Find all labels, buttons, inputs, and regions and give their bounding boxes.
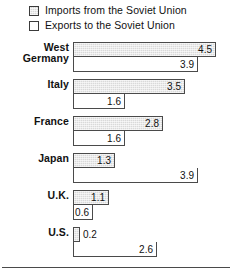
bar-value-exports: 3.9 bbox=[180, 59, 197, 70]
legend-item-exports-label: Exports to the Soviet Union bbox=[45, 20, 175, 31]
bar-exports: 3.9 bbox=[73, 168, 198, 183]
category-label: Japan bbox=[3, 153, 69, 164]
bar-exports: 0.6 bbox=[73, 205, 93, 220]
bar-imports: 1.1 bbox=[73, 190, 109, 205]
category-label-line1: U.S. bbox=[48, 226, 69, 238]
legend-item-imports: Imports from the Soviet Union bbox=[29, 4, 229, 17]
category-label: West Germany bbox=[3, 42, 69, 64]
bar-group: U.S. 0.2 2.6 bbox=[0, 227, 232, 264]
bar-value-imports: 1.1 bbox=[91, 192, 108, 203]
bar-imports: 2.8 bbox=[73, 116, 163, 131]
bar-pair: 4.5 3.9 bbox=[73, 42, 216, 72]
grouped-bar-chart: Imports from the Soviet Union Exports to… bbox=[0, 0, 232, 275]
category-label: France bbox=[3, 116, 69, 127]
bar-pair: 1.1 0.6 bbox=[73, 190, 109, 220]
bar-pair: 2.8 1.6 bbox=[73, 116, 163, 146]
bar-exports: 2.6 bbox=[73, 242, 157, 257]
category-label-line1: Japan bbox=[38, 152, 69, 164]
bar-imports: 3.5 bbox=[73, 79, 185, 94]
bar-group: Japan 1.3 3.9 bbox=[0, 153, 232, 190]
bar-imports: 1.3 bbox=[73, 153, 115, 168]
bar-value-exports: 1.6 bbox=[107, 133, 124, 144]
bar-exports: 1.6 bbox=[73, 94, 125, 109]
bar-value-imports: 2.8 bbox=[145, 118, 162, 129]
bar-value-exports: 1.6 bbox=[107, 96, 124, 107]
category-label: U.S. bbox=[3, 227, 69, 238]
category-label: Italy bbox=[3, 79, 69, 90]
bar-value-imports: 0.2 bbox=[79, 229, 97, 240]
category-label-line1: Italy bbox=[47, 78, 69, 90]
bar-group: West Germany 4.5 3.9 bbox=[0, 42, 232, 79]
bottom-divider bbox=[2, 267, 230, 268]
category-label-line1: France bbox=[34, 115, 69, 127]
legend-item-imports-label: Imports from the Soviet Union bbox=[45, 5, 187, 16]
bar-value-exports: 0.6 bbox=[75, 207, 92, 218]
bar-imports: 0.2 bbox=[73, 227, 80, 242]
bar-value-exports: 3.9 bbox=[180, 170, 197, 181]
legend-item-exports: Exports to the Soviet Union bbox=[29, 19, 229, 32]
bar-group: Italy 3.5 1.6 bbox=[0, 79, 232, 116]
bar-value-imports: 3.5 bbox=[167, 81, 184, 92]
bar-group: France 2.8 1.6 bbox=[0, 116, 232, 153]
bar-exports: 3.9 bbox=[73, 57, 198, 72]
shaded-square-icon bbox=[29, 6, 39, 16]
open-square-icon bbox=[29, 21, 39, 31]
bar-value-imports: 4.5 bbox=[198, 44, 215, 55]
bar-pair: 1.3 3.9 bbox=[73, 153, 198, 183]
bar-value-exports: 2.6 bbox=[139, 244, 156, 255]
bar-pair: 0.2 2.6 bbox=[73, 227, 157, 257]
bar-exports: 1.6 bbox=[73, 131, 125, 146]
bar-imports: 4.5 bbox=[73, 42, 216, 57]
chart-legend: Imports from the Soviet Union Exports to… bbox=[29, 4, 229, 34]
bar-value-imports: 1.3 bbox=[97, 155, 114, 166]
category-label: U.K. bbox=[3, 190, 69, 201]
category-label-line1: U.K. bbox=[48, 189, 69, 201]
bar-groups: West Germany 4.5 3.9 Italy 3.5 bbox=[0, 42, 232, 264]
bar-group: U.K. 1.1 0.6 bbox=[0, 190, 232, 227]
category-label-line2: Germany bbox=[3, 53, 69, 64]
bar-pair: 3.5 1.6 bbox=[73, 79, 185, 109]
